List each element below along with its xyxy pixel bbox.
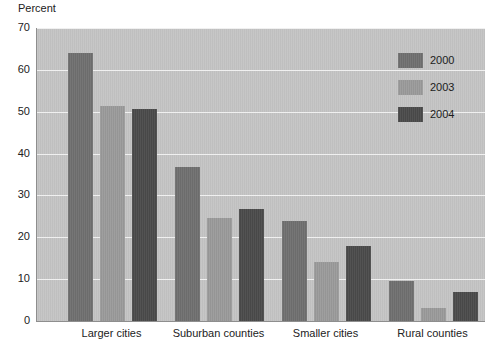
- legend-label: 2000: [430, 54, 454, 67]
- legend-item: 2000: [398, 50, 476, 71]
- y-axis-tick-label: 10: [2, 273, 30, 284]
- bar: [389, 281, 414, 321]
- legend-label: 2003: [430, 81, 454, 94]
- x-axis-category-label: Larger cities: [52, 327, 172, 340]
- bar-chart: Percent 010203040506070 Larger citiesSub…: [0, 0, 500, 361]
- bar-texture: [346, 246, 371, 321]
- bar-texture: [453, 292, 478, 321]
- y-axis-tick-label: 50: [2, 106, 30, 117]
- y-axis-unit-label: Percent: [18, 1, 56, 15]
- legend-item: 2003: [398, 77, 476, 98]
- bar: [453, 292, 478, 321]
- legend-swatch-texture: [398, 53, 423, 68]
- legend-item: 2004: [398, 104, 476, 125]
- legend-label: 2004: [430, 108, 454, 121]
- bar-texture: [175, 167, 200, 321]
- bar: [207, 218, 232, 321]
- bar-texture: [282, 221, 307, 321]
- bar-texture: [389, 281, 414, 321]
- bar: [175, 167, 200, 321]
- legend-swatch-texture: [398, 107, 423, 122]
- bar-texture: [314, 262, 339, 321]
- bar: [346, 246, 371, 321]
- x-axis-category-label: Suburban counties: [159, 327, 279, 340]
- y-axis-tick-label: 30: [2, 189, 30, 200]
- bar: [132, 109, 157, 321]
- bar: [100, 106, 125, 321]
- bar-texture: [100, 106, 125, 321]
- legend-swatch: [398, 107, 423, 122]
- legend-swatch-texture: [398, 80, 423, 95]
- legend-swatch: [398, 80, 423, 95]
- y-axis-tick-label: 70: [2, 22, 30, 33]
- gridline: [37, 28, 485, 29]
- bar: [68, 53, 93, 321]
- bar: [421, 308, 446, 321]
- x-axis-category-label: Rural counties: [373, 327, 493, 340]
- y-axis-tick-label: 40: [2, 148, 30, 159]
- legend-swatch: [398, 53, 423, 68]
- bar-texture: [239, 209, 264, 321]
- bar-texture: [421, 308, 446, 321]
- bar-texture: [68, 53, 93, 321]
- y-axis-tick-label: 20: [2, 231, 30, 242]
- bar: [239, 209, 264, 321]
- bar: [282, 221, 307, 321]
- x-axis-category-label: Smaller cities: [266, 327, 386, 340]
- legend: 200020032004: [398, 50, 476, 131]
- y-axis-tick-label: 60: [2, 64, 30, 75]
- bar: [314, 262, 339, 321]
- bar-texture: [132, 109, 157, 321]
- bar-texture: [207, 218, 232, 321]
- y-axis-tick-label: 0: [2, 315, 30, 326]
